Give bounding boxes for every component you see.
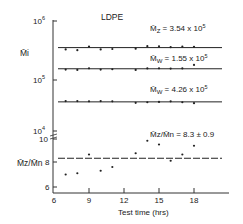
data-point-Mw_upper [135,69,137,71]
y-label-upper: M̄i [20,48,29,58]
data-point-Mz [100,48,102,50]
y-tick-label: 106 [33,15,45,26]
data-point-ratio [100,170,102,172]
data-point-Mw_lower [135,102,137,104]
data-point-Mw_upper [76,69,78,71]
data-point-Mw_upper [158,67,160,69]
x-tick-label: 12 [120,196,129,205]
data-point-ratio [181,153,183,155]
data-point-Mz [146,45,148,47]
data-point-ratio [111,166,113,168]
data-point-ratio [88,153,90,155]
data-point-Mz [181,46,183,48]
chart-title: LDPE [101,12,124,22]
x-axis-label: Test time (hrs) [118,208,169,217]
data-point-ratio [193,145,195,147]
y-tick-label: 10 [39,135,48,144]
data-point-Mz [76,49,78,51]
x-tick-label: 9 [87,196,92,205]
data-point-Mw_upper [111,68,113,70]
data-point-Mw_lower [181,101,183,103]
data-point-Mw_upper [170,68,172,70]
data-point-Mw_lower [193,102,195,104]
data-point-Mw_lower [76,100,78,102]
data-point-ratio [170,160,172,162]
data-point-ratio [135,152,137,154]
x-tick-label: 6 [52,196,57,205]
data-point-Mz [88,45,90,47]
series-label-Mw_upper: M̄W = 1.55 x 105 [150,53,207,64]
data-point-Mz [65,48,67,50]
data-point-Mw_lower [170,100,172,102]
data-point-ratio [146,140,148,142]
y-tick-label: 8 [45,158,50,167]
series-label-Mw_lower: M̄W = 4.26 x 105 [150,84,207,95]
x-tick-label: 18 [190,196,199,205]
data-point-Mz [170,46,172,48]
data-point-Mw_upper [181,67,183,69]
data-point-Mw_upper [88,67,90,69]
data-point-Mw_lower [158,101,160,103]
data-point-Mw_lower [65,100,67,102]
y-tick-label: 6 [45,183,50,192]
series-label-Mz: M̄Z = 3.54 x 105 [150,23,205,34]
data-point-Mw_lower [88,100,90,102]
data-point-Mz [135,48,137,50]
data-point-Mz [111,48,113,50]
series-label-ratio: M̄z/M̄n = 8.3 ± 0.9 [150,130,215,139]
x-tick-label: 15 [155,196,164,205]
data-point-Mw_upper [65,69,67,71]
data-point-Mw_upper [193,64,195,66]
data-point-Mw_lower [146,101,148,103]
data-point-ratio [158,143,160,145]
y-label-lower: M̄z/M̄n [17,158,43,168]
data-point-ratio [76,172,78,174]
data-point-Mw_lower [111,100,113,102]
data-point-Mw_lower [100,100,102,102]
data-point-Mz [193,46,195,48]
data-point-Mz [158,45,160,47]
data-point-ratio [65,173,67,175]
y-tick-label: 105 [33,74,45,85]
chart-canvas: LDPE M̄i M̄z/M̄n Test time (hrs) 1061051… [0,0,243,224]
data-point-Mw_upper [146,67,148,69]
data-point-Mw_upper [100,69,102,71]
